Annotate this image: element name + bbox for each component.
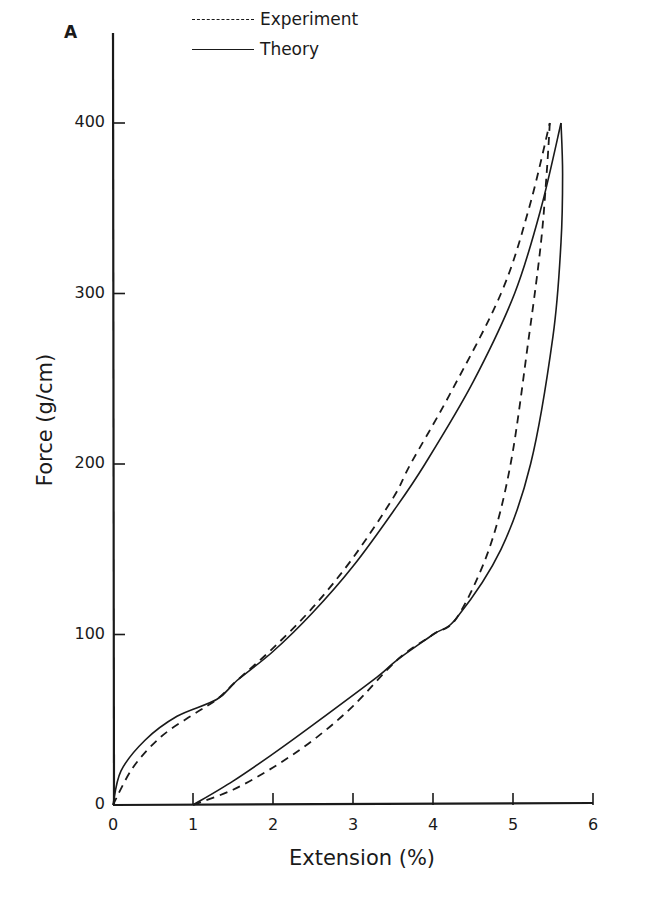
dashed-line-swatch-icon [192, 19, 254, 20]
y-tick-label: 100 [74, 624, 105, 643]
x-axis-label: Extension (%) [289, 846, 435, 870]
series-lines [113, 123, 563, 805]
x-tick-label: 6 [588, 815, 598, 834]
series-experiment-loading [113, 123, 550, 805]
axes [113, 33, 593, 805]
series-theory-unloading [193, 123, 563, 805]
legend-label-theory: Theory [260, 39, 319, 59]
hysteresis-chart [0, 0, 645, 899]
series-theory-loading [113, 123, 561, 805]
legend: Experiment Theory [192, 4, 358, 64]
x-tick-label: 5 [508, 815, 518, 834]
y-axis-label: Force (g/cm) [33, 354, 57, 486]
x-tick-label: 4 [428, 815, 438, 834]
x-tick-label: 3 [348, 815, 358, 834]
y-tick-label: 200 [74, 453, 105, 472]
y-tick-label: 0 [95, 794, 105, 813]
solid-line-swatch-icon [192, 49, 254, 50]
y-tick-label: 300 [74, 283, 105, 302]
panel-label: A [64, 22, 77, 42]
legend-item-experiment: Experiment [192, 4, 358, 34]
series-experiment-unloading [193, 123, 550, 805]
x-tick-label: 1 [188, 815, 198, 834]
x-tick-label: 0 [108, 815, 118, 834]
x-tick-label: 2 [268, 815, 278, 834]
legend-item-theory: Theory [192, 34, 358, 64]
legend-label-experiment: Experiment [260, 9, 358, 29]
y-tick-label: 400 [74, 112, 105, 131]
y-axis-line [113, 33, 114, 805]
